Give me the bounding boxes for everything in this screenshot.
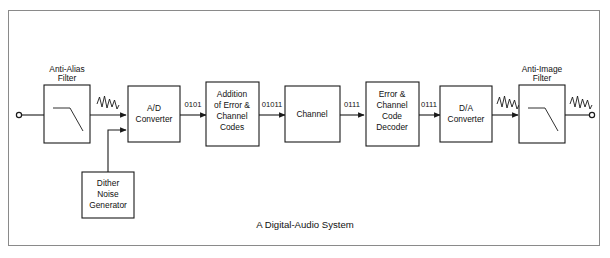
output-terminal <box>589 112 594 117</box>
da-converter-label-line2: Converter <box>448 114 485 124</box>
decoder-label-line3: Code <box>382 111 402 121</box>
block-anti-alias-filter[interactable] <box>44 85 90 143</box>
decoder-label-line2: Channel <box>376 100 407 110</box>
analog-waveform-output-icon <box>570 96 592 109</box>
digital-audio-system-figure: Anti-Alias Filter Anti-Image Filter A/D … <box>0 0 610 258</box>
signal-label-decoder-out: 0111 <box>421 100 437 109</box>
signal-label-ad-out: 0101 <box>185 100 202 109</box>
addition-codes-label-line3: Channel <box>216 111 247 121</box>
wire-dither-to-ad <box>108 130 126 172</box>
da-converter-label-line1: D/A <box>459 103 473 113</box>
addition-codes-label-line1: Addition <box>217 89 248 99</box>
ad-converter-label-line1: A/D <box>147 103 161 113</box>
decoder-label-line4: Decoder <box>376 122 408 132</box>
dither-label-line2: Noise <box>97 189 119 199</box>
dither-label-line1: Dither <box>97 178 120 188</box>
figure-caption: A Digital-Audio System <box>256 219 354 230</box>
anti-image-filter-label-line2: Filter <box>533 73 552 83</box>
ad-converter-label-line2: Converter <box>136 114 173 124</box>
analog-waveform-da-output-icon <box>497 96 519 109</box>
dither-label-line3: Generator <box>89 200 127 210</box>
decoder-label-line1: Error & <box>379 89 406 99</box>
addition-codes-label-line4: Codes <box>220 122 244 132</box>
addition-codes-label-line2: of Error & <box>214 100 250 110</box>
anti-alias-filter-label-line2: Filter <box>58 73 77 83</box>
block-diagram-canvas: Anti-Alias Filter Anti-Image Filter A/D … <box>0 0 610 258</box>
signal-label-codes-out: 01011 <box>262 100 283 109</box>
input-terminal <box>16 112 21 117</box>
signal-label-channel-out: 0111 <box>344 100 360 109</box>
analog-waveform-filter-output-icon <box>97 96 119 109</box>
block-anti-image-filter[interactable] <box>519 85 565 143</box>
channel-label: Channel <box>296 109 327 119</box>
